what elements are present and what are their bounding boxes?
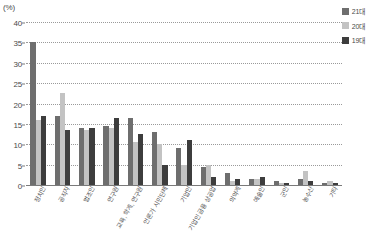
x-axis-tick-label: 연구원 xyxy=(106,186,120,204)
x-axis-tick-label: 농수산 xyxy=(301,186,315,204)
x-axis-tick-label: 군인 xyxy=(279,186,290,199)
legend-item[interactable]: 19대 xyxy=(342,35,365,45)
chart-legend: 21대 20대 19대 xyxy=(342,6,365,45)
x-axis-tick-label: 언론가 시민단체 xyxy=(143,186,169,225)
bar[interactable] xyxy=(235,179,240,185)
y-axis-tick-mark xyxy=(22,84,25,85)
bar-group xyxy=(245,22,269,185)
y-axis-tick-mark xyxy=(22,43,25,44)
y-axis-tick-mark xyxy=(22,165,25,166)
x-axis-tick-label: 기업인 금융 상공업 xyxy=(188,186,218,232)
y-axis-unit-label: (%) xyxy=(3,3,15,12)
bar-group xyxy=(26,22,50,185)
bar-group xyxy=(172,22,196,185)
bar-chart: (%) 21대 20대 19대 4035302520151050 정치인공직자법… xyxy=(0,0,369,251)
bar[interactable] xyxy=(41,116,46,185)
x-axis-tick-label: 교육, 학계, 연구원 xyxy=(116,186,145,229)
x-axis-tick-label: 공직자 xyxy=(58,186,72,204)
bar-group xyxy=(196,22,220,185)
legend-swatch-icon xyxy=(342,37,349,44)
legend-item-label: 21대 xyxy=(352,6,365,16)
y-axis-tick-mark xyxy=(22,186,25,187)
bar-groups xyxy=(26,22,342,185)
y-axis-tick-label: 20 xyxy=(14,100,23,109)
y-axis-tick-label: 40 xyxy=(14,19,23,28)
bar[interactable] xyxy=(114,118,119,185)
legend-item[interactable]: 21대 xyxy=(342,6,365,16)
y-axis-tick-label: 25 xyxy=(14,80,23,89)
y-axis-tick-label: 10 xyxy=(14,141,23,150)
x-axis-tick-label: 정치인 xyxy=(34,186,48,204)
bar-group xyxy=(75,22,99,185)
bar[interactable] xyxy=(187,140,192,185)
bar[interactable] xyxy=(260,177,265,185)
bar[interactable] xyxy=(65,130,70,185)
bar[interactable] xyxy=(162,165,167,185)
x-axis-tick-label: 의약계 xyxy=(228,186,242,204)
bar-group xyxy=(99,22,123,185)
bar-group xyxy=(221,22,245,185)
bar-group xyxy=(269,22,293,185)
bar-group xyxy=(50,22,74,185)
bar-group xyxy=(293,22,317,185)
y-axis-tick-mark xyxy=(22,104,25,105)
y-axis-tick-label: 30 xyxy=(14,59,23,68)
y-axis-tick-label: 35 xyxy=(14,39,23,48)
bar[interactable] xyxy=(308,181,313,185)
x-axis-tick-label: 기업인 xyxy=(179,186,193,204)
y-axis-tick-mark xyxy=(22,124,25,125)
x-axis-tick-label: 예술인 xyxy=(252,186,266,204)
x-axis-labels: 정치인공직자법조인연구원교육, 학계, 연구원언론가 시민단체기업인기업인 금융… xyxy=(26,186,342,250)
y-axis-tick-mark xyxy=(22,63,25,64)
x-axis-tick-label: 기타 xyxy=(328,186,339,199)
bar-group xyxy=(318,22,342,185)
bar-group xyxy=(123,22,147,185)
legend-item-label: 19대 xyxy=(352,35,365,45)
y-axis-tick-mark xyxy=(22,145,25,146)
bar[interactable] xyxy=(211,177,216,185)
plot-area: 4035302520151050 xyxy=(26,22,342,185)
y-axis-tick-label: 15 xyxy=(14,120,23,129)
legend-swatch-icon xyxy=(342,8,349,15)
legend-item-label: 20대 xyxy=(352,21,365,31)
y-axis-tick-mark xyxy=(22,23,25,24)
bar-group xyxy=(148,22,172,185)
legend-item[interactable]: 20대 xyxy=(342,21,365,31)
bar[interactable] xyxy=(89,128,94,185)
bar[interactable] xyxy=(138,134,143,185)
legend-swatch-icon xyxy=(342,22,349,29)
x-axis-tick-label: 법조인 xyxy=(82,186,96,204)
